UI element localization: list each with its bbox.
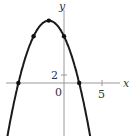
parabola-chart: x y 2 0 5 <box>0 0 135 136</box>
x-tick-label-5: 5 <box>98 88 105 101</box>
marked-point <box>62 34 66 38</box>
marked-point <box>16 81 20 85</box>
origin-label: 0 <box>55 86 62 99</box>
y-axis-label: y <box>58 0 66 13</box>
marked-point <box>77 81 81 85</box>
marked-points <box>16 18 81 85</box>
y-tick-label-2: 2 <box>51 69 58 82</box>
marked-point <box>47 18 51 22</box>
x-axis-label: x <box>123 77 130 90</box>
parabola-curve <box>1 21 94 136</box>
marked-point <box>31 34 35 38</box>
